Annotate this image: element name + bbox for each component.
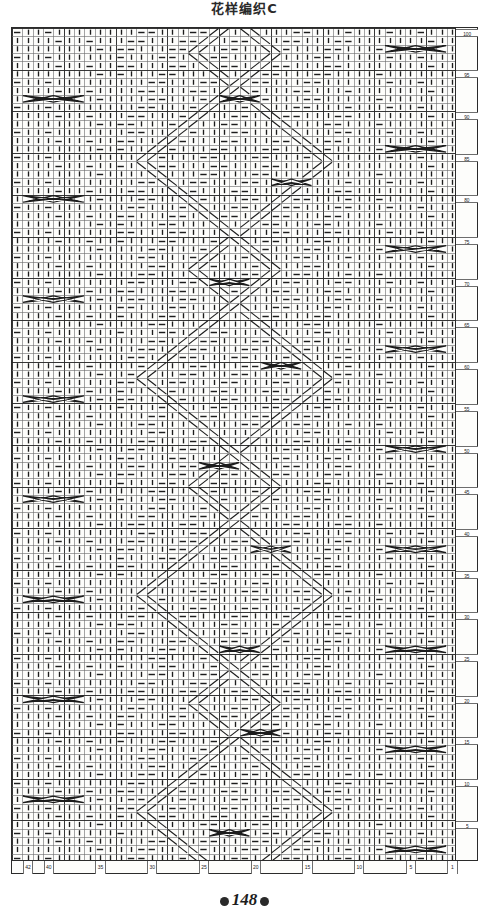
row-tick-label: 55: [464, 405, 469, 413]
row-tick-label: 95: [464, 71, 469, 79]
column-tick: 20: [251, 861, 261, 874]
column-tick: 25: [199, 861, 209, 874]
row-tick: 15: [456, 737, 478, 745]
row-tick-label: 5: [466, 822, 469, 830]
row-tick: 25: [456, 654, 478, 662]
column-number-axis: 151015202530354042: [11, 861, 456, 874]
column-tick: 10: [354, 861, 364, 874]
row-tick: 30: [456, 612, 478, 620]
column-tick: 40: [44, 861, 54, 874]
column-tick: 35: [95, 861, 105, 874]
row-tick-label: 10: [464, 780, 469, 788]
chart-grid-canvas: [12, 28, 455, 860]
row-tick-label: 50: [464, 447, 469, 455]
row-tick-label: 40: [464, 530, 469, 538]
column-tick: 1: [447, 861, 457, 874]
column-tick: 42: [23, 861, 33, 874]
row-tick: 35: [456, 571, 478, 579]
row-tick-label: 35: [464, 572, 469, 580]
row-tick: 5: [456, 821, 478, 829]
row-tick-label: 25: [464, 655, 469, 663]
row-tick-label: 100: [463, 30, 471, 38]
page-number: 148: [0, 890, 489, 910]
column-tick: 15: [302, 861, 312, 874]
row-tick-label: 90: [464, 113, 469, 121]
row-tick-label: 15: [464, 739, 469, 747]
row-tick: 85: [456, 154, 478, 162]
column-tick: 30: [147, 861, 157, 874]
row-tick-label: 45: [464, 488, 469, 496]
row-tick-label: 75: [464, 238, 469, 246]
row-tick-label: 30: [464, 613, 469, 621]
row-tick-label: 60: [464, 363, 469, 371]
row-tick: 40: [456, 529, 478, 537]
row-tick: 70: [456, 279, 478, 287]
row-tick: 95: [456, 70, 478, 78]
row-tick: 45: [456, 487, 478, 495]
row-tick: 10: [456, 779, 478, 787]
row-tick: 55: [456, 404, 478, 412]
row-tick-label: 85: [464, 155, 469, 163]
row-tick: 20: [456, 696, 478, 704]
column-tick: 5: [406, 861, 416, 874]
page-number-value: 148: [223, 890, 267, 910]
row-tick-label: 70: [464, 280, 469, 288]
row-tick: 50: [456, 446, 478, 454]
page-title: 花样编织C: [0, 0, 489, 17]
knitting-chart: [11, 27, 456, 861]
row-tick: 65: [456, 320, 478, 328]
row-tick: 60: [456, 362, 478, 370]
row-tick-label: 65: [464, 322, 469, 330]
row-tick: 100: [456, 29, 478, 37]
row-tick: 75: [456, 237, 478, 245]
row-tick: 80: [456, 195, 478, 203]
row-tick: 90: [456, 112, 478, 120]
row-tick-label: 20: [464, 697, 469, 705]
row-number-axis: 5101520253035404550556065707580859095100: [456, 27, 478, 861]
row-tick-label: 80: [464, 196, 469, 204]
